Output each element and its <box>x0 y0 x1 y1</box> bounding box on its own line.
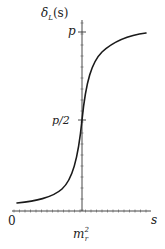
x-tick-label-center: m2r <box>73 226 89 243</box>
x-tick-label-origin: 0 <box>8 214 16 228</box>
phase-shift-chart: δL(s) p p/2 0 s m2r <box>0 0 165 249</box>
y-axis-label: δL(s) <box>41 6 68 22</box>
x-axis-label: s <box>151 213 157 227</box>
phase-shift-curve <box>17 33 146 203</box>
y-tick-label-p: p <box>68 24 76 38</box>
y-tick-label-p-half: p/2 <box>52 114 70 127</box>
